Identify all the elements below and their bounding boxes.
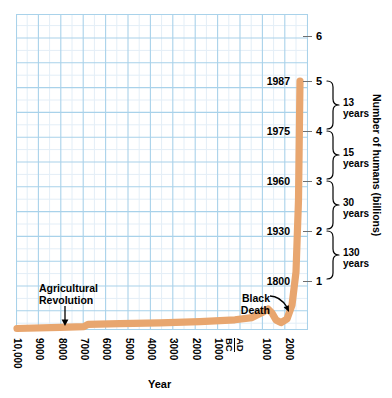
y-tick-line-1 — [303, 281, 312, 282]
population-growth-chart: 6 5 4 3 2 1 1987 1975 1960 1930 1800 — [0, 0, 392, 398]
doubling-30-num: 30 — [343, 197, 354, 208]
milestone-year-1960: 1960 — [255, 176, 290, 187]
y-axis-title: Number of humans (billions) — [371, 94, 383, 236]
y-tick-line-5 — [303, 81, 312, 82]
black-death-line2: Death — [223, 304, 270, 316]
y-tick-label-5: 5 — [316, 76, 322, 87]
milestone-year-1975: 1975 — [255, 126, 290, 137]
black-death-arrow — [268, 293, 298, 317]
doubling-130-unit: years — [343, 258, 369, 269]
era-label-bc: BC — [224, 338, 234, 352]
doubling-15-unit: years — [343, 158, 369, 169]
doubling-30-unit: years — [343, 208, 369, 219]
black-death-annotation: Black Death — [223, 292, 270, 316]
x-tick-label-4000: 4000 — [146, 338, 156, 360]
y-tick-label-6: 6 — [316, 31, 322, 42]
x-tick-label-2000ad: 2000 — [284, 338, 294, 360]
y-tick-label-4: 4 — [316, 126, 322, 137]
y-tick-label-2: 2 — [316, 226, 322, 237]
milestone-year-1800: 1800 — [255, 276, 290, 287]
x-tick-label-1000ad: 1000 — [261, 338, 271, 360]
agricultural-revolution-annotation: Agricultural Revolution — [39, 282, 98, 306]
doubling-15-num: 15 — [343, 147, 354, 158]
y-tick-line-3 — [303, 181, 312, 182]
doubling-13-num: 13 — [343, 97, 354, 108]
x-tick-label-6000: 6000 — [101, 338, 111, 360]
milestone-year-1930: 1930 — [255, 226, 290, 237]
x-tick-label-9000: 9000 — [34, 338, 44, 360]
x-tick-label-3000: 3000 — [168, 338, 178, 360]
y-tick-label-3: 3 — [316, 176, 322, 187]
bracket-30-years — [327, 181, 339, 229]
bracket-13-years — [327, 81, 339, 129]
x-tick-label-1000bc: 1000 — [213, 338, 223, 360]
era-label-ad: AD — [234, 338, 245, 352]
doubling-13-unit: years — [343, 108, 369, 119]
y-tick-line-6 — [303, 36, 312, 37]
x-tick-label-8000: 8000 — [57, 338, 67, 360]
black-death-line1: Black — [223, 292, 270, 304]
milestone-year-1987: 1987 — [255, 76, 290, 87]
bracket-130-years — [327, 231, 339, 279]
doubling-130-num: 130 — [343, 247, 360, 258]
x-tick-label-7000: 7000 — [79, 338, 89, 360]
x-tick-label-10000: 10,000 — [12, 338, 22, 369]
bracket-15-years — [327, 131, 339, 179]
y-tick-line-4 — [303, 131, 312, 132]
x-tick-label-5000: 5000 — [124, 338, 134, 360]
x-axis-title: Year — [148, 378, 171, 390]
agricultural-revolution-arrow — [56, 306, 76, 328]
agricultural-revolution-line2: Revolution — [39, 294, 98, 306]
era-divider-label: AD BC — [224, 338, 245, 352]
y-tick-label-1: 1 — [316, 276, 322, 287]
y-tick-line-2 — [303, 231, 312, 232]
agricultural-revolution-line1: Agricultural — [39, 282, 98, 294]
x-tick-label-2000bc: 2000 — [191, 338, 201, 360]
